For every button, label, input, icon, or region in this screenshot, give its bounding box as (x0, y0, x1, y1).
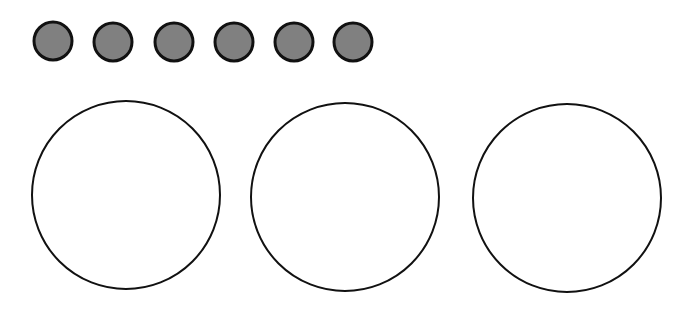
small-gray-circle (34, 22, 72, 60)
large-circles-row (32, 101, 661, 292)
large-empty-circle (473, 104, 661, 292)
small-circles-row (34, 22, 372, 61)
small-gray-circle (215, 23, 253, 61)
small-gray-circle (275, 23, 313, 61)
large-empty-circle (32, 101, 220, 289)
small-gray-circle (94, 23, 132, 61)
small-gray-circle (334, 23, 372, 61)
large-empty-circle (251, 103, 439, 291)
small-gray-circle (155, 23, 193, 61)
diagram-canvas (0, 0, 687, 318)
